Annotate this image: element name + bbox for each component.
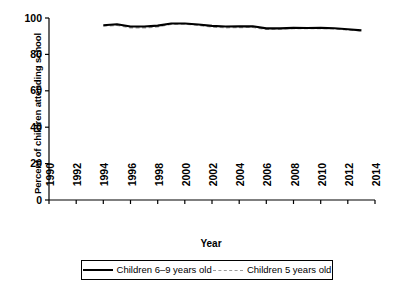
x-tick-label: 2006 [262,163,273,203]
chart-legend: Children 6–9 years old Children 5 years … [81,260,333,280]
legend-line-swatch-solid-icon [83,269,113,271]
x-tick-label: 2012 [344,163,355,203]
legend-entry-children-5-years-old: Children 5 years old [213,265,332,275]
legend-label: Children 5 years old [247,265,332,275]
x-tick-label: 1998 [154,163,165,203]
x-tick-label: 2002 [208,163,219,203]
x-tick-label: 2008 [290,163,301,203]
legend-line-swatch-dashed-icon [213,270,243,271]
x-axis-title: Year [49,238,373,249]
x-tick-label: 2004 [235,163,246,203]
legend-entry-children-6-9-years-old: Children 6–9 years old [83,265,212,275]
legend-label: Children 6–9 years old [117,265,212,275]
x-tick-label: 1992 [72,163,83,203]
x-tick-label: 2000 [181,163,192,203]
chart-container: Percent of children attending school 100… [0,0,415,288]
x-tick-label: 1996 [127,163,138,203]
x-tick-label: 1994 [99,163,110,203]
x-tick-label: 2014 [371,163,382,203]
x-tick-label: 1990 [45,163,56,203]
x-tick-label: 2010 [317,163,328,203]
